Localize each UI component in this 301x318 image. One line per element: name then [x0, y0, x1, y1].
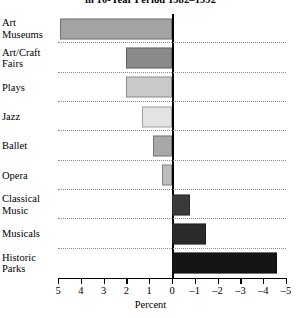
- category-label: Art/CraftFairs: [2, 47, 56, 70]
- x-tick: [172, 278, 173, 284]
- chart-container: in 10-Year Period 1982–1992 ArtMuseumsAr…: [0, 0, 301, 318]
- chart-row: [58, 102, 286, 131]
- x-tick-label: –1: [183, 285, 207, 296]
- x-tick-label: 4: [69, 285, 93, 296]
- bar: [60, 18, 172, 39]
- x-tick-label: 3: [92, 285, 116, 296]
- x-tick: [58, 278, 59, 284]
- category-label-line: Art: [2, 17, 56, 29]
- x-tick: [104, 278, 105, 284]
- category-label-line: Museums: [2, 29, 56, 41]
- chart-row: [58, 43, 286, 72]
- category-label: ArtMuseums: [2, 17, 56, 40]
- x-tick-label: –2: [206, 285, 230, 296]
- x-tick-label: –5: [274, 285, 298, 296]
- x-tick: [286, 278, 287, 284]
- chart-row: [58, 249, 286, 278]
- category-label: HistoricParks: [2, 252, 56, 275]
- bar: [153, 135, 172, 156]
- category-label-line: Ballet: [2, 140, 56, 152]
- category-label-line: Jazz: [2, 111, 56, 123]
- x-tick-label: –4: [251, 285, 275, 296]
- plot-area: [58, 14, 286, 278]
- bar: [172, 253, 277, 274]
- x-tick: [149, 278, 150, 284]
- x-tick: [81, 278, 82, 284]
- category-label: Ballet: [2, 140, 56, 152]
- x-tick: [218, 278, 219, 284]
- x-tick-label: –3: [228, 285, 252, 296]
- bar: [126, 77, 172, 98]
- category-label: Musicals: [2, 228, 56, 240]
- category-label: Jazz: [2, 111, 56, 123]
- bar: [172, 194, 190, 215]
- x-tick: [195, 278, 196, 284]
- category-label: Opera: [2, 170, 56, 182]
- category-label-line: Music: [2, 205, 56, 217]
- category-label-line: Plays: [2, 82, 56, 94]
- x-axis-label: Percent: [0, 299, 301, 310]
- category-label-line: Fairs: [2, 58, 56, 70]
- chart-row: [58, 161, 286, 190]
- x-tick-label: 2: [114, 285, 138, 296]
- category-label-line: Parks: [2, 263, 56, 275]
- bar: [162, 165, 172, 186]
- chart-title: in 10-Year Period 1982–1992: [0, 0, 301, 6]
- category-label-line: Art/Craft: [2, 47, 56, 59]
- x-tick-label: 5: [46, 285, 70, 296]
- chart-row: [58, 190, 286, 219]
- category-label-line: Historic: [2, 252, 56, 264]
- chart-row: [58, 219, 286, 248]
- bar: [126, 47, 172, 68]
- category-label-column: ArtMuseumsArt/CraftFairsPlaysJazzBalletO…: [0, 14, 56, 278]
- category-label-line: Musicals: [2, 228, 56, 240]
- bar: [142, 106, 172, 127]
- bar: [172, 223, 206, 244]
- x-tick-label: 0: [160, 285, 184, 296]
- category-label-line: Classical: [2, 193, 56, 205]
- x-tick: [126, 278, 127, 284]
- category-label: ClassicalMusic: [2, 193, 56, 216]
- chart-row: [58, 131, 286, 160]
- category-label: Plays: [2, 82, 56, 94]
- chart-row: [58, 73, 286, 102]
- x-tick-label: 1: [137, 285, 161, 296]
- x-tick: [240, 278, 241, 284]
- category-label-line: Opera: [2, 170, 56, 182]
- chart-row: [58, 14, 286, 43]
- x-tick: [263, 278, 264, 284]
